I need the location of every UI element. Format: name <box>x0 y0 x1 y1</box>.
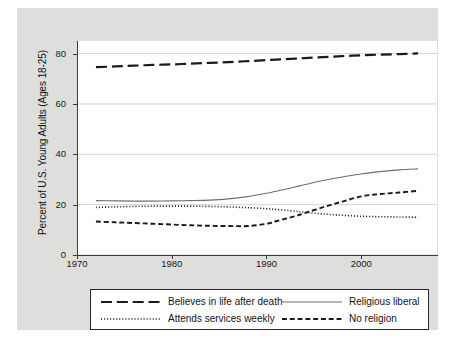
legend-key-dash-icon <box>281 311 343 327</box>
legend-label: Attends services weekly <box>168 312 275 326</box>
legend-key-solid-icon <box>281 294 343 310</box>
legend-label: No religion <box>349 312 397 326</box>
y-tick-label: 20 <box>46 200 66 210</box>
y-tick-label: 60 <box>46 99 66 109</box>
legend-key-long-dash-icon <box>100 294 162 310</box>
legend-key-dotted-icon <box>100 311 162 327</box>
x-tick-label: 1970 <box>57 259 97 269</box>
y-tick-mark <box>73 104 77 105</box>
legend-label: Believes in life after death <box>168 295 283 309</box>
series-lines <box>96 53 418 226</box>
y-tick-mark <box>73 54 77 55</box>
series-line-attends-services-weekly <box>96 206 418 217</box>
x-axis-line <box>77 255 438 256</box>
y-tick-label: 80 <box>46 49 66 59</box>
y-tick-label: 40 <box>46 149 66 159</box>
x-tick-label: 1990 <box>246 259 286 269</box>
x-tick-mark <box>361 255 362 259</box>
figure-background: 020406080 1970198019902000 Percent of U.… <box>17 8 438 330</box>
x-tick-mark <box>77 255 78 259</box>
series-line-religious-liberal <box>96 169 418 201</box>
series-line-believes-in-life-after-death <box>96 53 418 67</box>
gridlines <box>77 54 437 255</box>
chart-canvas <box>77 41 437 255</box>
y-axis-title: Percent of U.S. Young Adults (Ages 18-25… <box>37 36 48 250</box>
plot-panel <box>77 41 437 255</box>
y-tick-mark <box>73 205 77 206</box>
x-tick-mark <box>266 255 267 259</box>
y-axis-line <box>77 41 78 256</box>
x-tick-label: 1980 <box>152 259 192 269</box>
x-tick-label: 2000 <box>341 259 381 269</box>
x-tick-mark <box>172 255 173 259</box>
y-tick-mark <box>73 154 77 155</box>
chart-legend: Believes in life after deathReligious li… <box>90 289 429 330</box>
legend-label: Religious liberal <box>349 295 420 309</box>
